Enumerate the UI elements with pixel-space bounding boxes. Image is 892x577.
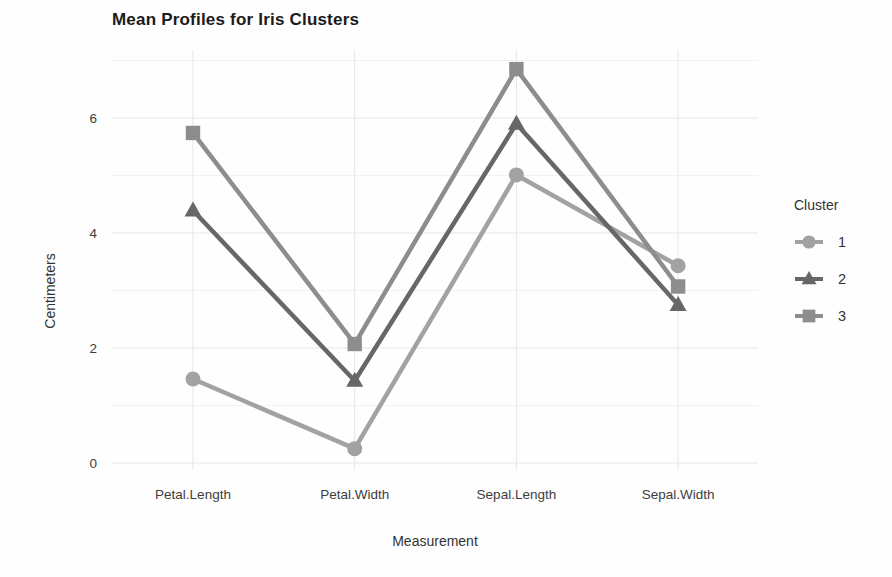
marker-square: [803, 309, 816, 322]
marker-square: [186, 126, 200, 140]
x-tick-label: Petal.Width: [320, 487, 389, 502]
legend-title: Cluster: [794, 197, 846, 213]
legend-label: 3: [838, 308, 846, 324]
y-tick-label: 2: [89, 341, 97, 356]
marker-triangle: [508, 115, 525, 130]
series-line-2: [193, 124, 678, 381]
legend: Cluster 123: [792, 197, 846, 334]
x-axis-title: Measurement: [112, 533, 758, 549]
marker-circle: [186, 372, 201, 387]
marker-square: [509, 62, 523, 76]
x-tick-label: Sepal.Width: [642, 487, 715, 502]
x-tick-label: Petal.Length: [155, 487, 231, 502]
legend-entry-2: 2: [792, 260, 846, 297]
marker-circle: [509, 167, 524, 182]
chart-plot-area: 0246Petal.LengthPetal.WidthSepal.LengthS…: [0, 0, 892, 577]
legend-entry-3: 3: [792, 297, 846, 334]
y-tick-labels: 0246: [89, 111, 97, 471]
legend-entry-1: 1: [792, 223, 846, 260]
y-tick-label: 6: [89, 111, 97, 126]
legend-entries: 123: [792, 223, 846, 334]
x-tick-labels: Petal.LengthPetal.WidthSepal.LengthSepal…: [155, 487, 714, 502]
series-line-3: [193, 69, 678, 344]
legend-label: 1: [838, 234, 846, 250]
series-lines: [193, 69, 678, 449]
legend-label: 2: [838, 271, 846, 287]
y-tick-label: 4: [89, 226, 97, 241]
legend-key: [792, 229, 826, 255]
marker-circle: [347, 441, 362, 456]
x-tick-label: Sepal.Length: [477, 487, 557, 502]
marker-circle: [671, 258, 686, 273]
series-line-1: [193, 175, 678, 449]
marker-square: [348, 337, 362, 351]
legend-key: [792, 303, 826, 329]
marker-square: [671, 279, 685, 293]
y-axis-title: Centimeters: [42, 253, 58, 328]
marker-triangle: [185, 202, 202, 217]
marker-circle: [802, 235, 815, 248]
y-tick-label: 0: [89, 456, 97, 471]
series-markers: [185, 62, 687, 456]
legend-key: [792, 266, 826, 292]
